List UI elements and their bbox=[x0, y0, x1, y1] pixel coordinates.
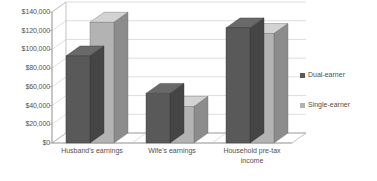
plot-content bbox=[50, 2, 307, 143]
y-tick-label: $140,000 bbox=[4, 8, 50, 16]
x-category-label: Wife's earnings bbox=[132, 146, 212, 156]
y-tick-label: $40,000 bbox=[4, 102, 50, 110]
legend-swatch-single-earner bbox=[300, 103, 305, 108]
bar-1-1 bbox=[66, 46, 104, 143]
legend-label-dual-earner: Dual-earner bbox=[308, 71, 345, 79]
legend-item-dual-earner: Dual-earner bbox=[300, 60, 377, 90]
legend-label-single-earner: Single-earner bbox=[308, 101, 350, 109]
bar-3-1 bbox=[226, 18, 264, 143]
y-tick-label: $20,000 bbox=[4, 120, 50, 128]
bar-chart: $0$20,000$40,000$60,000$80,000$100,000$1… bbox=[0, 0, 377, 181]
chart-legend: Dual-earner Single-earner bbox=[300, 60, 377, 120]
legend-item-single-earner: Single-earner bbox=[300, 90, 377, 120]
x-category-label: Husband's earnings bbox=[52, 146, 132, 156]
y-tick-label: $0 bbox=[4, 139, 50, 147]
y-tick-label: $80,000 bbox=[4, 64, 50, 72]
x-axis-category-labels: Husband's earningsWife's earningsHouseho… bbox=[52, 146, 292, 180]
legend-swatch-dual-earner bbox=[300, 73, 305, 78]
y-tick-label: $60,000 bbox=[4, 83, 50, 91]
y-tick-label: $100,000 bbox=[4, 45, 50, 53]
y-tick-label: $120,000 bbox=[4, 27, 50, 35]
x-category-label: Household pre-tax income bbox=[212, 146, 292, 165]
y-axis-tick-labels: $0$20,000$40,000$60,000$80,000$100,000$1… bbox=[0, 0, 50, 181]
bar-2-1 bbox=[146, 83, 184, 143]
